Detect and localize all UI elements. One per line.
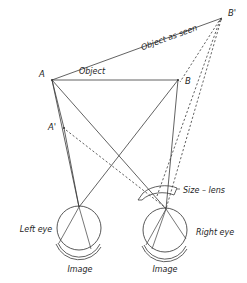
label-group: A B A' B' Object Object as seen Size – l…: [20, 8, 236, 274]
vertex-dot-group: [51, 18, 222, 129]
label-point-a-prime: A': [47, 122, 56, 132]
label-point-b-prime: B': [228, 8, 236, 18]
size-lens-body: [138, 186, 177, 200]
ray-a-prime-to-left-eye: [64, 128, 79, 207]
label-object: Object: [79, 67, 106, 76]
optics-diagram-svg: A B A' B' Object Object as seen Size – l…: [0, 0, 247, 283]
ray-a-to-left-eye: [52, 80, 79, 207]
vertex-dot-a-prime: [63, 127, 65, 129]
left-eye-internal-ray-2: [79, 207, 91, 249]
ray-b-to-left-eye: [79, 80, 178, 207]
label-image-left: Image: [67, 265, 92, 274]
vertex-dot-b-prime: [220, 18, 222, 20]
dashed-ray-b-prime-to-right-eye: [166, 20, 221, 209]
label-left-eye: Left eye: [20, 225, 53, 234]
ray-a-to-right-eye: [52, 80, 166, 209]
left-eye-internal-ray-1: [59, 207, 79, 243]
right-eye-internal-ray-3: [166, 209, 186, 239]
label-size-lens: Size – lens: [183, 186, 225, 195]
label-point-b: B: [185, 76, 191, 86]
left-eye-circle: [57, 206, 101, 250]
label-object-as-seen: Object as seen: [140, 23, 199, 52]
vertex-dot-a: [51, 79, 53, 81]
size-lens-shape: [138, 186, 180, 200]
dashed-ray-a-prime-to-right-eye: [66, 130, 166, 208]
solid-ray-group: [52, 80, 178, 209]
vertex-dot-b: [177, 79, 179, 81]
label-right-eye: Right eye: [196, 228, 234, 237]
optics-diagram-root: A B A' B' Object Object as seen Size – l…: [0, 0, 247, 283]
label-point-a: A: [38, 69, 45, 79]
dashed-ray-b-prime-to-lens: [157, 20, 220, 196]
right-eye-group: [142, 208, 187, 262]
right-eye-internal-ray-2: [152, 209, 166, 249]
left-eye-group: [56, 206, 101, 260]
label-image-right: Image: [152, 265, 177, 274]
